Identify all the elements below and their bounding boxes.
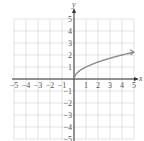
y-tick-label: 1 bbox=[68, 63, 72, 72]
y-tick-label: −4 bbox=[63, 123, 72, 132]
tick-labels: −5−4−3−2−11234554321−1−2−3−4−5 bbox=[10, 15, 136, 141]
curve-path bbox=[74, 52, 134, 79]
y-tick-label: −3 bbox=[63, 111, 72, 120]
x-axis-label: x bbox=[138, 74, 143, 83]
x-tick-label: 5 bbox=[132, 81, 136, 90]
x-tick-label: −2 bbox=[46, 81, 55, 90]
x-tick-label: 4 bbox=[120, 81, 124, 90]
x-tick-label: 3 bbox=[108, 81, 112, 90]
y-tick-label: −2 bbox=[63, 99, 72, 108]
x-tick-label: −3 bbox=[34, 81, 43, 90]
function-graph: −5−4−3−2−11234554321−1−2−3−4−5 x y bbox=[0, 0, 144, 141]
y-tick-label: 5 bbox=[68, 15, 72, 24]
x-tick-label: 2 bbox=[96, 81, 100, 90]
y-tick-label: 4 bbox=[68, 27, 72, 36]
y-tick-label: 2 bbox=[68, 51, 72, 60]
curve-sqrt-x bbox=[74, 50, 134, 79]
x-tick-label: −4 bbox=[22, 81, 31, 90]
x-tick-label: 1 bbox=[84, 81, 88, 90]
y-tick-label: −1 bbox=[63, 87, 72, 96]
x-tick-label: −5 bbox=[10, 81, 19, 90]
y-axis-label: y bbox=[71, 0, 76, 9]
y-tick-label: 3 bbox=[68, 39, 72, 48]
y-tick-label: −5 bbox=[63, 135, 72, 141]
